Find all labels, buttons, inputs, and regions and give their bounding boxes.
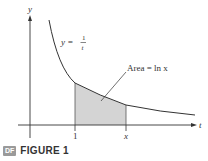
tick-label-1: 1 xyxy=(73,131,78,141)
figure-graph: y t 1 x y = 1 t Area = ln x xyxy=(0,0,208,161)
area-annotation: Area = ln x xyxy=(127,63,168,73)
caption-text: FIGURE 1 xyxy=(20,145,69,156)
equation-numerator: 1 xyxy=(82,34,86,42)
y-axis-label: y xyxy=(27,4,32,14)
shaded-area-region xyxy=(75,83,126,125)
t-axis-label: t xyxy=(199,120,202,130)
equation-denominator: t xyxy=(82,44,85,52)
equation-lhs: y = xyxy=(60,37,73,47)
df-badge: DF xyxy=(3,146,16,156)
figure-caption: DF FIGURE 1 xyxy=(3,145,69,156)
tick-label-x: x xyxy=(123,131,128,141)
t-axis-arrow-icon xyxy=(191,123,197,127)
annotation-leader-line xyxy=(101,72,126,101)
y-axis-arrow-icon xyxy=(28,15,32,21)
curve-reciprocal xyxy=(49,20,195,115)
